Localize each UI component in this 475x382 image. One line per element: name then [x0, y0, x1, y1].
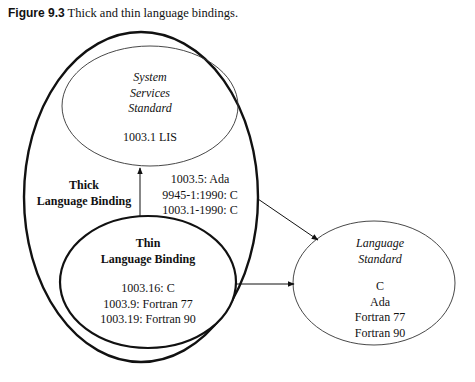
thin-binding-items: 1003.16: C 1003.9: Fortran 77 1003.19: F… [88, 281, 208, 328]
title-line: Standard [100, 101, 200, 117]
item-line: 1003.19: Fortran 90 [88, 312, 208, 328]
thick-binding-title: Thick Language Binding [34, 178, 134, 209]
item-line: 1003.1-1990: C [150, 203, 250, 219]
title-line: Language Binding [34, 194, 134, 210]
title-line: System [100, 70, 200, 86]
thin-binding-title: Thin Language Binding [88, 236, 208, 267]
title-line: Thick [34, 178, 134, 194]
language-standard-title: Language Standard [330, 236, 430, 267]
item-line: Fortran 77 [330, 310, 430, 326]
title-line: Standard [330, 252, 430, 268]
item-line: Fortran 90 [330, 326, 430, 342]
system-services-title: System Services Standard [100, 70, 200, 117]
item-line: 9945-1:1990: C [150, 188, 250, 204]
system-services-items: 1003.1 LIS [100, 130, 200, 146]
language-standard-items: C Ada Fortran 77 Fortran 90 [330, 279, 430, 341]
item-line: 1003.9: Fortran 77 [88, 297, 208, 313]
thick-binding-items: 1003.5: Ada 9945-1:1990: C 1003.1-1990: … [150, 172, 250, 219]
item-line: 1003.16: C [88, 281, 208, 297]
item-line: C [330, 279, 430, 295]
title-line: Thin [88, 236, 208, 252]
title-line: Language Binding [88, 252, 208, 268]
item-line: 1003.5: Ada [150, 172, 250, 188]
title-line: Services [100, 86, 200, 102]
item-line: Ada [330, 295, 430, 311]
arrow-thick-to-language [258, 199, 318, 240]
title-line: Language [330, 236, 430, 252]
item-line: 1003.1 LIS [100, 130, 200, 146]
